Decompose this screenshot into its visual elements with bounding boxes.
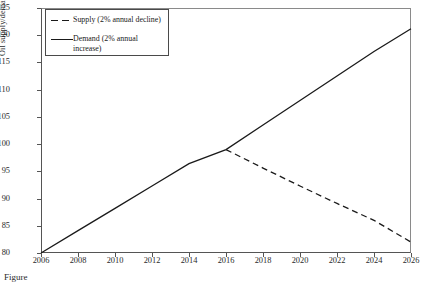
y-tick-label: 85 (0, 221, 10, 230)
x-tick-mark (41, 253, 42, 257)
legend-label-demand: Demand (2% annual increase) (73, 34, 164, 53)
x-tick-mark (337, 253, 338, 257)
y-tick-label: 125 (0, 3, 10, 12)
y-tick-label: 115 (0, 57, 10, 66)
y-tick-label: 90 (0, 194, 10, 203)
x-tick-label: 2016 (206, 256, 246, 265)
x-tick-mark (263, 253, 264, 257)
x-tick-mark (78, 253, 79, 257)
dashed-line-sample (51, 16, 73, 25)
figure-container: Oil supply/demand (million bbl/day) 8085… (0, 0, 425, 283)
figure-caption: Figure (4, 272, 28, 282)
x-tick-label: 2014 (169, 256, 209, 265)
x-tick-mark (300, 253, 301, 257)
x-tick-mark (411, 253, 412, 257)
x-tick-label: 2020 (280, 256, 320, 265)
x-tick-label: 2022 (317, 256, 357, 265)
y-tick-label: 110 (0, 85, 10, 94)
y-tick-label: 95 (0, 166, 10, 175)
legend-label-supply: Supply (2% annual decline) (73, 15, 161, 25)
x-tick-label: 2010 (95, 256, 135, 265)
y-tick-label: 80 (0, 248, 10, 257)
x-tick-label: 2024 (354, 256, 394, 265)
solid-line-sample (51, 35, 73, 44)
x-tick-mark (374, 253, 375, 257)
x-tick-label: 2006 (21, 256, 61, 265)
y-tick-label: 120 (0, 30, 10, 39)
x-tick-mark (226, 253, 227, 257)
chart-legend: Supply (2% annual decline) Demand (2% an… (45, 9, 169, 56)
x-tick-label: 2026 (391, 256, 425, 265)
legend-entry-supply: Supply (2% annual decline) (51, 15, 164, 25)
x-tick-mark (152, 253, 153, 257)
x-tick-label: 2018 (243, 256, 283, 265)
series-line-demand (41, 29, 411, 253)
y-tick-label: 105 (0, 112, 10, 121)
x-tick-label: 2012 (132, 256, 172, 265)
legend-entry-demand: Demand (2% annual increase) (51, 34, 164, 53)
x-tick-mark (115, 253, 116, 257)
series-line-supply (226, 150, 411, 243)
y-tick-label: 100 (0, 139, 10, 148)
x-tick-mark (189, 253, 190, 257)
x-tick-label: 2008 (58, 256, 98, 265)
